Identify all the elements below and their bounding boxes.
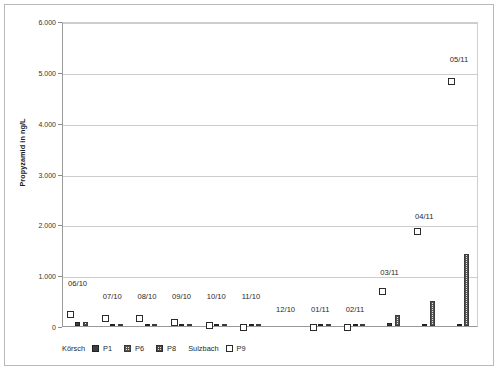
bar-p1	[249, 324, 254, 326]
data-point-p9	[379, 288, 386, 295]
category-group	[306, 23, 341, 326]
bar-p1	[318, 324, 323, 326]
category-label: 06/10	[68, 279, 87, 288]
legend-swatch-p9	[226, 345, 233, 352]
data-point-p9	[102, 315, 109, 322]
category-group	[340, 23, 375, 326]
data-point-p9	[136, 315, 143, 322]
data-point-p9	[414, 228, 421, 235]
legend-entry-p9[interactable]: P9	[226, 344, 246, 353]
bar-p1	[179, 324, 184, 326]
chart-figure: Propyzamid in ng/L 01.0002.0003.0004.000…	[0, 0, 499, 375]
y-axis-tick-label: 4.000	[10, 120, 56, 127]
y-axis-tick-mark	[58, 327, 62, 328]
bar-p6	[430, 301, 435, 326]
bar-p1	[422, 324, 427, 326]
category-group	[202, 23, 237, 326]
bar-p6	[326, 324, 331, 326]
bar-p6	[187, 324, 192, 326]
category-label: 11/10	[242, 292, 260, 301]
legend-label: P8	[167, 344, 176, 353]
bar-p1	[214, 324, 219, 326]
y-axis-title: Propyzamid in ng/L	[18, 78, 27, 228]
data-point-p9	[206, 322, 213, 329]
category-group	[167, 23, 202, 326]
data-point-p9	[171, 319, 178, 326]
category-label: 01/11	[311, 305, 329, 314]
bar-p1	[353, 324, 358, 326]
category-label: 09/10	[172, 292, 191, 301]
category-group	[410, 23, 445, 326]
category-group	[271, 23, 306, 326]
legend-label: P9	[237, 344, 246, 353]
bar-p1	[387, 323, 392, 326]
bar-p6	[256, 324, 261, 326]
category-label: 08/10	[137, 292, 156, 301]
data-point-p9	[240, 324, 247, 331]
legend-swatch-p8	[156, 345, 163, 352]
bar-p6	[360, 324, 365, 326]
category-label: 05/11	[450, 55, 468, 64]
bar-p6	[395, 315, 400, 326]
bar-p6	[118, 324, 123, 326]
category-group	[375, 23, 410, 326]
category-label: 07/10	[103, 292, 122, 301]
category-label: 02/11	[346, 305, 364, 314]
bar-p1	[75, 322, 80, 326]
legend-entry-p6[interactable]: P6	[124, 344, 144, 353]
legend-label: P1	[103, 344, 112, 353]
category-group	[98, 23, 133, 326]
legend-entry-p1[interactable]: P1	[92, 344, 112, 353]
legend-swatch-p1	[92, 345, 99, 352]
bar-p1	[145, 324, 150, 326]
data-point-p9	[310, 324, 317, 331]
y-axis-tick-label: 6.000	[10, 19, 56, 26]
legend-group-name: Sulzbach	[188, 344, 218, 353]
y-axis-tick-label: 5.000	[10, 69, 56, 76]
legend-swatch-p6	[124, 345, 131, 352]
category-label: 04/11	[415, 212, 433, 221]
y-axis-tick-label: 3.000	[10, 171, 56, 178]
category-label: 12/10	[276, 305, 295, 314]
bar-p1	[110, 324, 115, 326]
data-point-p9	[67, 311, 74, 318]
y-axis-tick-label: 1.000	[10, 273, 56, 280]
category-group	[444, 23, 479, 326]
legend-entry-p8[interactable]: P8	[156, 344, 176, 353]
chart-legend: KörschP1P6P8SulzbachP9	[62, 344, 258, 353]
plot-area	[62, 22, 478, 327]
bar-p6	[464, 254, 469, 326]
bar-p6	[152, 324, 157, 326]
legend-group-name: Körsch	[62, 344, 85, 353]
bar-p1	[457, 324, 462, 326]
category-label: 10/10	[207, 292, 226, 301]
data-point-p9	[448, 78, 455, 85]
category-label: 03/11	[380, 268, 398, 277]
y-axis-tick-label: 2.000	[10, 222, 56, 229]
bar-p6	[222, 324, 227, 326]
y-axis-tick-label: 0	[10, 324, 56, 331]
legend-label: P6	[135, 344, 144, 353]
category-group	[132, 23, 167, 326]
data-point-p9	[344, 324, 351, 331]
bar-p6	[83, 322, 88, 326]
category-group	[236, 23, 271, 326]
